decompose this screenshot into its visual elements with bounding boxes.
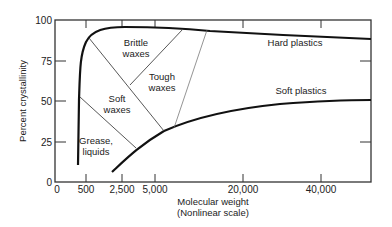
x-tick-500: 500 — [78, 184, 95, 195]
y-tick-50: 50 — [41, 96, 53, 107]
region-grease-2: liquids — [83, 146, 110, 157]
region-hard-plastics: Hard plastics — [268, 37, 323, 48]
x-tick-5000: 5,000 — [142, 184, 167, 195]
region-tough-waxes-2: waxes — [148, 82, 176, 93]
y-tick-100: 100 — [35, 15, 52, 26]
x-tick-0: 0 — [54, 184, 60, 195]
region-brittle-waxes-2: waxes — [122, 48, 150, 59]
x-tick-20000: 20,000 — [228, 184, 259, 195]
region-soft-waxes-2: waxes — [103, 104, 131, 115]
region-brittle-waxes-1: Brittle — [124, 37, 148, 48]
region-grease-1: Grease, — [79, 135, 113, 146]
region-soft-plastics: Soft plastics — [275, 85, 326, 96]
region-soft-waxes-1: Soft — [109, 93, 126, 104]
x-tick-2500: 2,500 — [109, 184, 134, 195]
crystallinity-chart: 100 75 50 25 0 0 500 2,500 5,000 20,000 … — [0, 0, 392, 227]
y-axis-label: Percent crystallinity — [17, 60, 28, 142]
y-tick-25: 25 — [41, 137, 53, 148]
soft-plastics-curve — [112, 100, 371, 172]
x-axis-label: Molecular weight — [177, 196, 249, 207]
region-tough-waxes-1: Tough — [149, 71, 175, 82]
y-tick-0: 0 — [46, 177, 52, 188]
x-tick-40000: 40,000 — [306, 184, 337, 195]
tough-hard-boundary — [174, 30, 207, 128]
y-tick-75: 75 — [41, 56, 53, 67]
x-axis-note: (Nonlinear scale) — [177, 207, 249, 218]
